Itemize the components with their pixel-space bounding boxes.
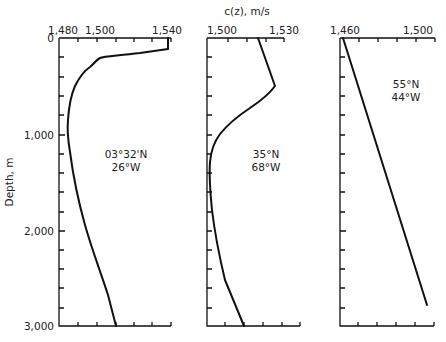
- p1-location-lat: 03°32'N: [105, 148, 148, 160]
- p1-x-tick-1480: 1,480: [48, 24, 78, 36]
- chart-title: c(z), m/s: [224, 5, 269, 17]
- p3-location-lon: 44°W: [392, 91, 422, 103]
- panel-35N-68W: 1,500 1,530 35°N 68°W: [207, 24, 300, 326]
- p2-location-lon: 68°W: [252, 161, 282, 173]
- p2-x-tick-1530: 1,530: [269, 24, 299, 36]
- p1-x-tick-1540: 1,540: [152, 24, 182, 36]
- panel-55N-44W: 1,460 1,500 55°N 44°W: [330, 24, 435, 326]
- y-tick-1000: 1,000: [24, 129, 54, 141]
- p3-x-tick-1460: 1,460: [330, 24, 360, 36]
- y-axis-label: Depth, m: [3, 158, 15, 207]
- p2-x-tick-1500: 1,500: [207, 24, 237, 36]
- y-tick-3000: 3,000: [24, 320, 54, 332]
- p1-location-lon: 26°W: [112, 161, 142, 173]
- p2-profile-line: [210, 38, 275, 326]
- p1-profile-line: [68, 38, 168, 326]
- y-tick-2000: 2,000: [24, 225, 54, 237]
- panel-03N-26W: 1,480 1,500 1,540 03°32'N 26°W: [48, 24, 182, 326]
- p1-x-tick-1500: 1,500: [85, 24, 115, 36]
- p3-location-lat: 55°N: [393, 78, 419, 90]
- p2-location-lat: 35°N: [253, 148, 279, 160]
- sound-speed-profiles-chart: c(z), m/s Depth, m 0 1,000 2,000 3,000 1…: [0, 0, 446, 342]
- p3-x-tick-1500: 1,500: [403, 24, 433, 36]
